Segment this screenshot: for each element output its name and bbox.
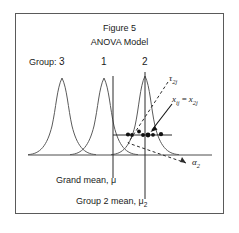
equals-sign: = — [182, 94, 187, 104]
group-2-mean-label: Group 2 mean, μ2 — [76, 197, 147, 208]
group-axis-label: Group: — [29, 58, 57, 67]
tau-subscript: 2j — [172, 78, 177, 85]
data-point — [141, 133, 145, 137]
figure-title-line-1: Figure 5 — [15, 24, 224, 33]
x-label-pointer-line — [152, 104, 172, 130]
group-number-2: 2 — [142, 57, 148, 67]
density-curve-group-3 — [28, 78, 96, 155]
alpha-subscript: 2 — [197, 162, 200, 169]
figure-title-line-2: ANOVA Model — [15, 38, 224, 47]
data-point — [137, 130, 141, 134]
x-ij-subscript: ij — [176, 99, 180, 106]
group-2-mean-text: Group 2 mean, μ — [76, 196, 144, 206]
alpha-arrowhead-icon — [180, 157, 186, 163]
data-point — [159, 132, 163, 136]
group-number-3: 3 — [59, 57, 65, 67]
data-point — [151, 133, 155, 137]
group-number-1: 1 — [101, 57, 107, 67]
group-2-mean-subscript: 2 — [144, 201, 148, 208]
grand-mean-label: Grand mean, μ — [56, 176, 116, 185]
x-ij-equals-x-2j-label: xij=x2j — [172, 95, 198, 106]
data-point — [146, 133, 151, 138]
data-point — [126, 132, 130, 136]
tau-2j-label: τ2j — [169, 74, 177, 85]
alpha-2-label: α2 — [192, 158, 200, 169]
figure-root: Figure 5 ANOVA Model Group: 3 1 2 τ2j xi… — [0, 0, 239, 233]
x-2j-subscript: 2j — [193, 99, 198, 106]
